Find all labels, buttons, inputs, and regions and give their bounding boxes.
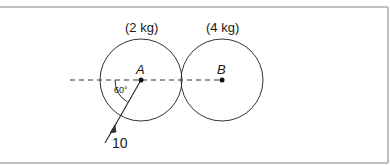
point-label-b: B [217,62,226,77]
center-point-b [220,78,225,83]
force-arrowhead-icon [110,125,116,133]
mass-label-b: (4 kg) [206,20,239,35]
force-label: 10 [112,135,128,151]
point-label-a: A [136,62,145,77]
diagram-canvas [0,0,390,166]
collision-diagram: (2 kg) (4 kg) A B 60° 10 [0,0,390,166]
angle-label: 60° [114,85,128,95]
mass-label-a: (2 kg) [125,20,158,35]
center-point-a [139,78,144,83]
